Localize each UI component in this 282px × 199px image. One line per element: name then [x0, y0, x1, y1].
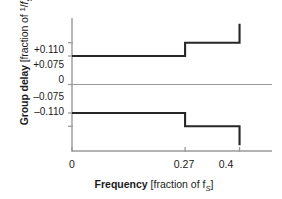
x-axis-label: Frequency [fraction of fS]: [46, 178, 262, 193]
x-axis-label-bold: Frequency: [95, 178, 148, 190]
group-delay-chart: Group delay [fraction of 1/fS] +0.110 +0…: [0, 0, 282, 199]
series-upper-group-delay: [72, 24, 240, 56]
plot-area: [0, 0, 282, 199]
x-axis-label-rest: [fraction of f: [148, 178, 206, 190]
x-axis-label-close: ]: [210, 178, 213, 190]
series-lower-group-delay: [72, 113, 240, 145]
